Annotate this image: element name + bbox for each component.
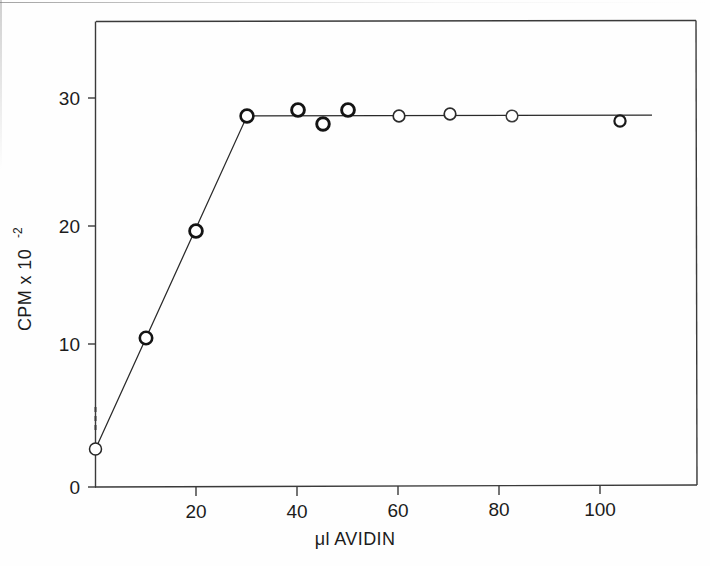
- data-point-80: [506, 110, 518, 122]
- frame-right-edge: [696, 21, 697, 486]
- data-point-50: [342, 104, 355, 117]
- y-tick-label-30: 30: [59, 88, 80, 109]
- chart-svg: 30 20 10 0 20 40 60 80 100 μl AVIDIN CPM…: [0, 0, 710, 566]
- data-point-30: [241, 110, 254, 123]
- data-point-100: [614, 115, 625, 126]
- x-tick-label-100: 100: [584, 499, 616, 520]
- data-point-45: [317, 118, 330, 131]
- data-point-60: [393, 110, 405, 122]
- figure-canvas: 30 20 10 0 20 40 60 80 100 μl AVIDIN CPM…: [0, 0, 710, 566]
- data-point-0: [90, 443, 102, 455]
- data-point-10: [140, 332, 152, 344]
- y-tick-label-10: 10: [59, 334, 80, 355]
- y-tick-label-20: 20: [59, 216, 80, 237]
- x-tick-label-20: 20: [185, 501, 206, 522]
- data-point-70: [444, 108, 456, 120]
- plot-frame: [95, 21, 697, 488]
- data-point-20: [190, 225, 203, 238]
- y-axis-title-group: CPM x 10 -2: [11, 227, 35, 331]
- y-axis-title-exponent: -2: [11, 227, 25, 238]
- frame-top-edge: [96, 21, 696, 22]
- data-markers: [90, 104, 626, 455]
- y-axis-title: CPM x 10: [15, 249, 35, 331]
- data-line-fit: [96, 115, 653, 449]
- x-axis-title: μl AVIDIN: [315, 529, 396, 549]
- data-point-40: [292, 104, 305, 117]
- x-axis-line: [95, 485, 697, 487]
- x-tick-label-40: 40: [286, 501, 307, 522]
- x-tick-label-80: 80: [488, 499, 509, 520]
- y-tick-label-0: 0: [69, 477, 80, 498]
- x-tick-label-60: 60: [387, 500, 408, 521]
